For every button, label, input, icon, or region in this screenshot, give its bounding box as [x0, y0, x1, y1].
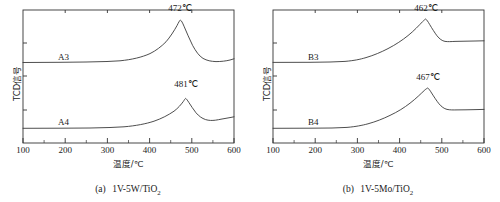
xtick-label-a-2: 300 — [101, 146, 115, 155]
panel-a: 472℃ 481℃ A3 A4 100 200 300 400 500 600 … — [0, 0, 250, 202]
plot-a — [0, 0, 250, 202]
xtick-label-a-5: 600 — [227, 146, 241, 155]
y-axis-ticks-b — [273, 43, 277, 110]
curve-b4 — [273, 88, 484, 128]
caption-b-text: 1V-5Mo/TiO — [360, 184, 409, 194]
xtick-label-b-3: 400 — [393, 146, 407, 155]
peak-label-b4: 467℃ — [416, 73, 440, 82]
xtick-label-b-5: 600 — [477, 146, 491, 155]
curve-b3 — [273, 19, 484, 62]
xtick-label-b-2: 300 — [351, 146, 365, 155]
curve-label-a4: A4 — [58, 118, 69, 127]
xtick-label-b-4: 500 — [435, 146, 449, 155]
caption-b-index: (b) — [343, 184, 354, 194]
plot-frame-b — [273, 10, 484, 143]
y-axis-title-a: TCD信号 — [13, 66, 22, 101]
xtick-label-b-0: 100 — [266, 146, 280, 155]
peak-label-a4: 481℃ — [174, 80, 198, 89]
caption-a-sub: 2 — [157, 189, 160, 196]
peak-label-a3: 472℃ — [168, 4, 192, 13]
curve-a3 — [23, 20, 234, 63]
xtick-label-a-1: 200 — [58, 146, 72, 155]
x-axis-title-b: 温度/℃ — [363, 160, 393, 169]
caption-b-sub: 2 — [410, 189, 413, 196]
peak-label-b3: 462℃ — [414, 4, 438, 13]
caption-b: (b) 1V-5Mo/TiO2 — [343, 185, 413, 197]
caption-a-text: 1V-5W/TiO — [112, 184, 157, 194]
panel-b: 462℃ 467℃ B3 B4 100 200 300 400 500 600 … — [250, 0, 500, 202]
plot-b — [250, 0, 500, 202]
curve-label-b3: B3 — [308, 53, 319, 62]
x-axis-title-a: 温度/℃ — [113, 160, 143, 169]
xtick-label-a-4: 500 — [185, 146, 199, 155]
y-axis-title-b: TCD信号 — [263, 66, 272, 101]
xtick-label-a-3: 400 — [143, 146, 157, 155]
xtick-label-b-1: 200 — [308, 146, 322, 155]
plot-frame-a — [23, 10, 234, 143]
y-axis-ticks-a — [23, 43, 27, 110]
figure-root: 472℃ 481℃ A3 A4 100 200 300 400 500 600 … — [0, 0, 500, 202]
curve-label-a3: A3 — [58, 53, 69, 62]
xtick-label-a-0: 100 — [16, 146, 30, 155]
curve-a4 — [23, 98, 234, 128]
curve-label-b4: B4 — [308, 118, 319, 127]
caption-a: (a) 1V-5W/TiO2 — [95, 185, 161, 197]
caption-a-index: (a) — [95, 184, 106, 194]
